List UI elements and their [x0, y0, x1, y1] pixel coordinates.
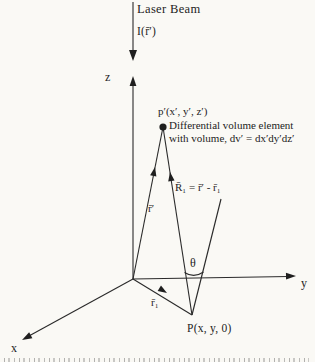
x-axis-label: x [11, 342, 17, 355]
theta-angle-label: θ [190, 257, 196, 270]
P-point-label: P(x, y, 0) [187, 322, 232, 334]
r-prime-vector-label: r̄′ [148, 203, 154, 215]
r-prime-arrowhead-icon [150, 166, 158, 176]
r1-vector-label: r̄₁ [151, 297, 159, 309]
laser-beam-arrowhead-icon [129, 50, 137, 61]
z-axis-label: z [105, 71, 110, 84]
cropped-caption-strip [4, 358, 309, 362]
y-axis-line [133, 277, 289, 280]
R1-vector-equation-label: R̄₁ = r̄′ - r̄₁ [175, 182, 221, 194]
z-axis-arrowhead-icon [130, 76, 137, 86]
r1-arrowhead-icon [158, 286, 169, 296]
p-prime-point-dot [159, 123, 166, 130]
R1-arrowhead-icon [167, 172, 175, 182]
y-axis-label: y [301, 277, 307, 290]
laser-beam-label: Laser Beam [137, 3, 201, 16]
lidar-geometry-figure: Laser Beam I(r̄′) z y x p′(x′, y′, z′) D… [0, 0, 315, 362]
x-axis-arrowhead-icon [20, 332, 32, 343]
theta-angle-arc [185, 272, 204, 275]
theta-reference-line [192, 199, 221, 315]
r1-vector-line [133, 279, 192, 315]
laser-intensity-label: I(r̄′) [137, 25, 156, 37]
y-axis-arrowhead-icon [286, 273, 296, 280]
p-prime-point-label: p′(x′, y′, z′) [158, 106, 207, 118]
volume-note-line1: Differential volume element [169, 120, 293, 132]
R1-vector-line [163, 127, 192, 315]
x-axis-line [28, 279, 133, 337]
volume-note-line2: with volume, dv′ = dx′dy′dz′ [169, 133, 295, 145]
